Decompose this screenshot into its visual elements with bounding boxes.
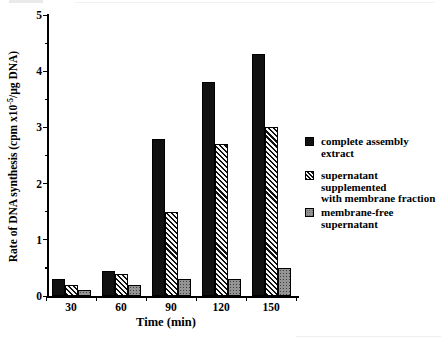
bar-membrane-free-supernatant-60	[128, 285, 141, 296]
x-boundary-tick-2	[146, 297, 147, 301]
y-minor-tick-2.5	[45, 155, 48, 156]
y-major-tick-5	[43, 15, 48, 16]
y-tick-label-3: 3	[18, 121, 42, 133]
x-axis-line	[47, 296, 299, 298]
x-tick-label-90: 90	[151, 301, 191, 314]
bar-supernatant-supplemented-with-membrane-fraction-150	[265, 127, 278, 296]
legend-label-line2: with membrane fraction	[321, 193, 440, 205]
x-axis-title: Time (min)	[106, 315, 226, 330]
y-major-tick-2	[43, 183, 48, 184]
legend-swatch-solid-black	[305, 137, 314, 146]
bar-complete-assembly-extract-60	[102, 271, 115, 296]
x-tick-label-30: 30	[51, 301, 91, 314]
legend-label-line2: extract	[321, 148, 440, 160]
bar-supernatant-supplemented-with-membrane-fraction-30	[65, 285, 78, 296]
y-major-tick-1	[43, 239, 48, 240]
legend-label-line1: complete assembly	[321, 136, 440, 148]
y-major-tick-3	[43, 127, 48, 128]
y-tick-label-2: 2	[18, 178, 42, 190]
y-minor-tick-4.5	[45, 43, 48, 44]
legend-label-line2: supernatant	[321, 219, 440, 231]
legend-swatch-gray-stipple	[305, 208, 314, 217]
y-tick-label-5: 5	[18, 9, 42, 21]
x-boundary-tick-0	[46, 297, 47, 301]
y-minor-tick-0.5	[45, 267, 48, 268]
legend-swatch-diagonal-hatch	[305, 171, 314, 180]
x-tick-label-60: 60	[101, 301, 141, 314]
legend-label: complete assembly extract	[321, 136, 440, 159]
bar-complete-assembly-extract-90	[152, 139, 165, 296]
figure: Rate of DNA synthesis (cpm x10-5/µg DNA)…	[0, 0, 441, 340]
legend-label: supernatant supplemented with membrane f…	[321, 170, 440, 205]
bar-complete-assembly-extract-120	[202, 82, 215, 296]
x-boundary-tick-3	[196, 297, 197, 301]
bar-supernatant-supplemented-with-membrane-fraction-120	[215, 144, 228, 296]
bar-complete-assembly-extract-150	[252, 54, 265, 296]
x-boundary-tick-5	[296, 297, 297, 301]
y-minor-tick-3.5	[45, 99, 48, 100]
x-boundary-tick-1	[96, 297, 97, 301]
legend-label: membrane-free supernatant	[321, 207, 440, 230]
y-tick-label-0: 0	[18, 290, 42, 302]
y-tick-label-4: 4	[18, 65, 42, 77]
x-tick-label-120: 120	[201, 301, 241, 314]
y-minor-tick-1.5	[45, 211, 48, 212]
legend-label-line1: supernatant supplemented	[321, 170, 440, 193]
bar-complete-assembly-extract-30	[52, 279, 65, 296]
legend-label-line1: membrane-free	[321, 207, 440, 219]
bar-membrane-free-supernatant-120	[228, 279, 241, 296]
bar-membrane-free-supernatant-30	[78, 290, 91, 296]
bar-membrane-free-supernatant-150	[278, 268, 291, 296]
x-tick-label-150: 150	[251, 301, 291, 314]
x-boundary-tick-4	[246, 297, 247, 301]
y-major-tick-4	[43, 71, 48, 72]
bar-membrane-free-supernatant-90	[178, 279, 191, 296]
bar-supernatant-supplemented-with-membrane-fraction-90	[165, 212, 178, 296]
bar-supernatant-supplemented-with-membrane-fraction-60	[115, 274, 128, 296]
y-tick-label-1: 1	[18, 234, 42, 246]
